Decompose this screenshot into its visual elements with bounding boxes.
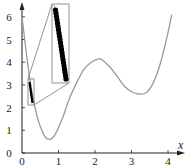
- x-ticks: 01234: [19, 150, 171, 166]
- y-tick-label: 4: [6, 56, 12, 68]
- y-tick-label: 1: [6, 124, 12, 136]
- x-tick-label: 4: [165, 155, 171, 166]
- chart: 0123456 01234 x: [0, 0, 186, 166]
- x-axis-label: x: [177, 138, 184, 152]
- data-point-marker: [63, 76, 68, 81]
- x-tick-label: 0: [19, 155, 25, 166]
- y-tick-label: 5: [6, 34, 12, 46]
- highlighted-points-small: [30, 82, 33, 103]
- zoom-connector-bottom: [34, 83, 69, 105]
- y-tick-label: 2: [6, 102, 12, 114]
- axes: [20, 2, 186, 156]
- zoom-connector-top: [28, 4, 52, 79]
- x-tick-label: 2: [92, 155, 98, 166]
- x-tick-label: 3: [129, 155, 135, 166]
- y-axis-arrow-icon: [20, 2, 25, 10]
- x-tick-label: 1: [56, 155, 62, 166]
- y-tick-label: 0: [6, 147, 12, 159]
- y-tick-label: 3: [6, 79, 12, 91]
- curve-line: [22, 15, 172, 140]
- y-tick-label: 6: [6, 11, 12, 23]
